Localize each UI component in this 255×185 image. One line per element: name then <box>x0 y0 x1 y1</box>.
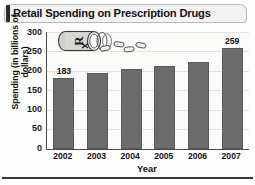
plot-area: 183259 <box>46 32 249 150</box>
x-tick-2004: 2004 <box>113 151 147 161</box>
gridline-300 <box>47 32 249 33</box>
bar-2006 <box>188 62 209 149</box>
y-tick-50: 50 <box>16 124 42 133</box>
y-tick-300: 300 <box>16 28 42 37</box>
y-tick-0: 0 <box>16 144 42 153</box>
y-tick-200: 200 <box>16 66 42 75</box>
x-tick-2005: 2005 <box>147 151 181 161</box>
gridline-250 <box>47 51 249 52</box>
gridline-100 <box>47 110 249 111</box>
gridline-150 <box>47 90 249 91</box>
bar-2002 <box>53 78 74 149</box>
bar-2007 <box>222 48 243 149</box>
bar-2004 <box>121 69 142 149</box>
bottom-divider <box>2 177 253 179</box>
x-tick-2002: 2002 <box>46 151 80 161</box>
y-tick-250: 250 <box>16 47 42 56</box>
bar-value-2002: 183 <box>44 67 84 76</box>
x-tick-2003: 2003 <box>80 151 114 161</box>
page-title: Retail Spending on Prescription Drugs <box>13 6 211 21</box>
y-tick-100: 100 <box>16 105 42 114</box>
x-axis-ticks: 200220032004200520062007 <box>46 151 248 163</box>
bar-2005 <box>154 66 175 149</box>
bar-2003 <box>87 73 108 149</box>
x-tick-2007: 2007 <box>214 151 248 161</box>
x-tick-2006: 2006 <box>181 151 215 161</box>
chart-figure: Retail Spending on Prescription Drugs Sp… <box>0 0 255 185</box>
x-axis-label: Year <box>46 163 248 174</box>
bar-value-2007: 259 <box>212 37 252 46</box>
y-tick-150: 150 <box>16 86 42 95</box>
gridline-50 <box>47 129 249 130</box>
y-axis-ticks: 300 250 200 150 100 50 0 <box>14 32 42 153</box>
